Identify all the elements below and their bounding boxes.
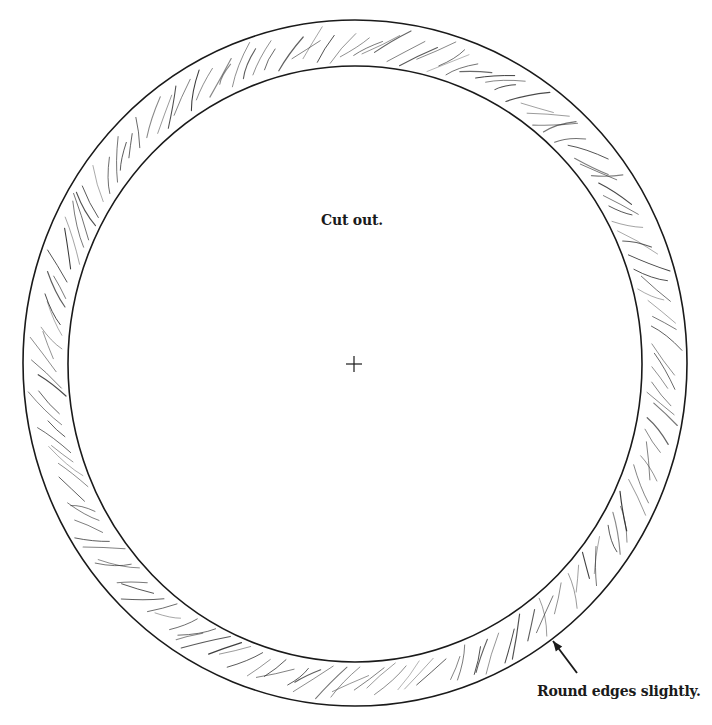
grain-line	[220, 64, 231, 84]
grain-line	[148, 604, 178, 612]
grain-line	[247, 660, 270, 676]
grain-line	[362, 36, 400, 54]
grain-line	[158, 95, 172, 133]
grain-line	[651, 326, 682, 350]
grain-line	[612, 221, 643, 227]
grain-line	[65, 217, 79, 264]
grain-line	[243, 49, 255, 79]
grain-line	[48, 272, 66, 308]
grain-line	[174, 79, 190, 115]
grain-line	[49, 447, 83, 476]
grain-line	[98, 560, 139, 568]
grain-line	[568, 145, 608, 159]
grain-line	[647, 418, 668, 445]
grain-line	[170, 619, 198, 630]
grain-line	[583, 552, 590, 578]
grain-line	[648, 301, 676, 324]
grain-line	[93, 166, 103, 202]
grain-line	[38, 428, 71, 453]
grain-line	[209, 643, 242, 655]
grain-line	[427, 55, 469, 72]
grain-line	[58, 463, 88, 486]
grain-line	[75, 520, 103, 532]
grain-line	[638, 289, 664, 300]
grain-line	[476, 76, 515, 78]
center-crosshair-icon	[346, 356, 362, 372]
grain-line	[155, 613, 181, 618]
grain-line	[295, 670, 321, 683]
grain-line	[117, 582, 147, 583]
grain-line	[568, 574, 577, 609]
grain-line	[575, 158, 609, 174]
round-edges-label: Round edges slightly.	[537, 683, 701, 699]
grain-line	[623, 241, 652, 247]
grain-line	[555, 583, 562, 614]
grain-line	[458, 645, 465, 680]
grain-line	[398, 661, 419, 690]
grain-line	[28, 392, 61, 425]
grain-line	[486, 80, 526, 82]
grain-line	[39, 391, 60, 414]
grain-line	[32, 360, 62, 388]
grain-line	[108, 157, 110, 193]
grain-line	[652, 382, 671, 406]
grain-line	[48, 250, 67, 282]
grain-line	[533, 123, 578, 125]
grain-line	[256, 669, 294, 677]
grain-line	[609, 206, 632, 215]
grain-line	[265, 49, 276, 70]
grain-line	[48, 421, 65, 437]
grain-line	[543, 122, 576, 132]
grain-line	[121, 599, 164, 600]
ring-template-drawing	[0, 0, 712, 725]
grain-line	[293, 666, 333, 692]
grain-line	[54, 276, 66, 298]
grain-line	[122, 584, 154, 594]
grain-line	[628, 255, 670, 271]
outer-ring-outline	[23, 20, 687, 706]
grain-line	[613, 512, 620, 554]
grain-line	[354, 668, 384, 690]
grain-line	[521, 103, 553, 112]
grain-line	[653, 317, 677, 330]
grain-line	[210, 59, 231, 98]
grain-line	[219, 647, 250, 655]
wood-grain-texture	[28, 27, 682, 699]
grain-line	[405, 658, 434, 689]
arrow-pointer-icon	[553, 641, 577, 673]
grain-line	[120, 142, 126, 170]
grain-line	[181, 636, 230, 648]
grain-line	[83, 547, 125, 549]
grain-line	[45, 294, 60, 325]
grain-line	[629, 480, 646, 516]
grain-line	[594, 537, 599, 574]
grain-line	[400, 48, 438, 66]
grain-line	[634, 269, 668, 280]
grain-line	[317, 35, 334, 62]
grain-line	[495, 85, 516, 90]
grain-line	[330, 34, 356, 64]
grain-line	[253, 41, 271, 75]
grain-line	[375, 666, 407, 695]
grain-line	[303, 27, 322, 59]
grain-line	[292, 41, 320, 59]
grain-line	[555, 138, 586, 142]
grain-line	[512, 614, 519, 659]
grain-line	[446, 64, 478, 75]
grain-line	[117, 137, 119, 183]
grain-line	[621, 506, 628, 542]
grain-line	[417, 42, 456, 59]
grain-line	[527, 113, 569, 116]
grain-line	[367, 663, 395, 688]
grain-line	[227, 653, 262, 668]
grain-line	[506, 92, 550, 101]
grain-line	[460, 71, 492, 72]
cut-out-label: Cut out.	[321, 212, 383, 228]
grain-line	[168, 86, 176, 128]
grain-line	[476, 639, 487, 672]
grain-line	[340, 38, 369, 57]
grain-line	[647, 392, 674, 414]
grain-line	[580, 164, 616, 180]
grain-line	[191, 70, 199, 111]
grain-line	[608, 525, 617, 552]
